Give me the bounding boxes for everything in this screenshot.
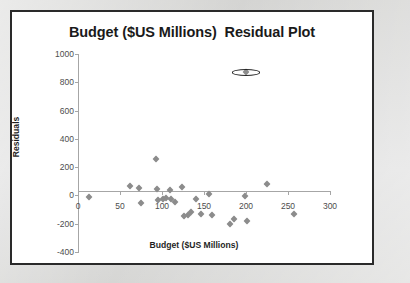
x-tick-mark [288, 191, 289, 195]
data-point [153, 156, 160, 163]
y-tick-mark [75, 252, 79, 253]
x-tick-mark [330, 191, 331, 195]
data-point [172, 198, 179, 205]
chart-card: Budget ($US Millions) Residual Plot 1000… [10, 10, 374, 265]
y-tick-mark [75, 167, 79, 168]
data-point [243, 217, 250, 224]
data-point [209, 212, 216, 219]
data-point [231, 215, 238, 222]
y-tick-mark [75, 111, 79, 112]
x-tick-mark [78, 191, 79, 195]
data-point [192, 195, 199, 202]
y-tick-mark [75, 82, 79, 83]
data-point [127, 182, 134, 189]
y-axis-title: Residuals [11, 117, 21, 158]
data-point [290, 210, 297, 217]
x-tick-mark [246, 191, 247, 195]
data-point [136, 184, 143, 191]
y-tick-mark [75, 139, 79, 140]
y-tick-mark [75, 195, 79, 196]
y-tick-mark [75, 224, 79, 225]
outlier-highlight-ellipse [232, 69, 261, 76]
y-tick-mark [75, 54, 79, 55]
data-point [167, 186, 174, 193]
plot-wrapper: 10008006004002000-200-400 05010015020025… [12, 12, 376, 267]
x-tick-mark [120, 191, 121, 195]
data-point [205, 190, 212, 197]
x-axis-title: Budget ($US Millions) [12, 240, 376, 250]
x-tick-mark [204, 191, 205, 195]
data-point [179, 183, 186, 190]
data-point [263, 181, 270, 188]
data-point [85, 193, 92, 200]
x-tick-mark [162, 191, 163, 195]
data-point [197, 210, 204, 217]
data-point [137, 200, 144, 207]
data-point [153, 186, 160, 193]
plot-area [78, 54, 330, 252]
